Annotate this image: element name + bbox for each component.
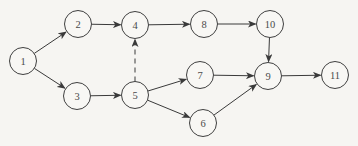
edge-6-to-9 [214, 85, 256, 116]
node-11: 11 [322, 62, 349, 89]
node-1: 1 [10, 48, 37, 75]
node-2: 2 [65, 11, 92, 38]
node-10: 10 [257, 11, 284, 38]
node-9: 9 [255, 63, 282, 90]
node-label-11: 11 [330, 70, 340, 81]
node-label-6: 6 [200, 118, 205, 129]
node-label-7: 7 [197, 70, 202, 81]
diagram-canvas: 1234567891011 [0, 0, 358, 146]
nodes-layer: 1234567891011 [10, 11, 349, 137]
node-label-1: 1 [20, 56, 25, 67]
edge-3-to-5 [91, 95, 121, 96]
node-7: 7 [187, 62, 214, 89]
edge-2-to-4 [92, 24, 121, 25]
edge-4-to-8 [149, 24, 190, 25]
node-3: 3 [64, 83, 91, 110]
node-5: 5 [122, 82, 149, 109]
directed-graph: 1234567891011 [0, 0, 358, 146]
node-label-2: 2 [75, 19, 80, 30]
edge-5-to-7 [148, 79, 186, 91]
edge-9-to-11 [282, 75, 321, 76]
edge-1-to-2 [34, 32, 66, 53]
node-8: 8 [191, 11, 218, 38]
node-label-9: 9 [265, 71, 270, 82]
edge-5-to-6 [147, 100, 189, 117]
node-4: 4 [122, 12, 149, 39]
node-label-3: 3 [74, 91, 79, 102]
edge-10-to-9 [269, 37, 270, 61]
node-label-8: 8 [201, 19, 206, 30]
edge-1-to-3 [34, 68, 65, 88]
edge-7-to-9 [214, 75, 254, 76]
node-label-4: 4 [132, 20, 138, 31]
node-label-10: 10 [265, 19, 276, 30]
node-6: 6 [190, 110, 217, 137]
node-label-5: 5 [132, 90, 137, 101]
